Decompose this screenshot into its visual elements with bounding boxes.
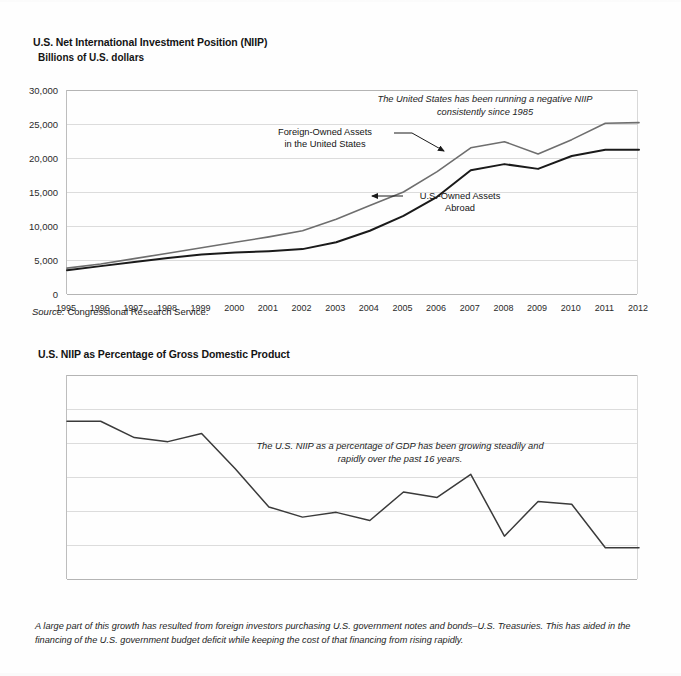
page-footnote: A large part of this growth has resulted…	[35, 620, 647, 648]
gridline	[67, 579, 637, 580]
chart2-annotation: The U.S. NIIP as a percentage of GDP has…	[215, 440, 585, 465]
chart1-leader-lines	[0, 0, 681, 330]
source-value: Congressional Research Service.	[67, 306, 208, 317]
chart2-title: U.S. NIIP as Percentage of Gross Domesti…	[38, 348, 290, 360]
chart1-source-note: Source: Congressional Research Service.	[32, 306, 208, 317]
chart-niip-pct-gdp: U.S. NIIP as Percentage of Gross Domesti…	[0, 340, 681, 610]
document-page: U.S. Net International Investment Positi…	[0, 0, 681, 676]
chart2-series-line	[67, 375, 639, 579]
chart2-plot-area	[66, 375, 638, 579]
source-label: Source:	[32, 306, 65, 317]
chart-niip-absolute: U.S. Net International Investment Positi…	[0, 0, 681, 330]
